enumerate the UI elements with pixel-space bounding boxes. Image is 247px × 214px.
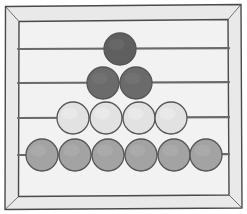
bead-row-4-bead-3[interactable] <box>92 139 124 171</box>
abacus-drawing <box>0 0 247 214</box>
bead-row-4-bead-4[interactable] <box>125 139 157 171</box>
abacus-figure: Abacus counting frame Four-rod abacus wi… <box>0 0 247 214</box>
bead-row-4-bead-2[interactable] <box>59 139 91 171</box>
bead-row-4-bead-1[interactable] <box>26 139 58 171</box>
bead-row-3-bead-2[interactable] <box>90 102 122 134</box>
bead-row-2-bead-1[interactable] <box>87 67 119 99</box>
bead-row-1-bead-1[interactable] <box>104 33 136 65</box>
bead-row-3-bead-4[interactable] <box>155 102 187 134</box>
bead-row-4-bead-5[interactable] <box>158 139 190 171</box>
bead-row-3-bead-1[interactable] <box>57 102 89 134</box>
bead-row-4-bead-6[interactable] <box>190 139 222 171</box>
bead-row-3-bead-3[interactable] <box>123 102 155 134</box>
bead-row-2-bead-2[interactable] <box>120 67 152 99</box>
